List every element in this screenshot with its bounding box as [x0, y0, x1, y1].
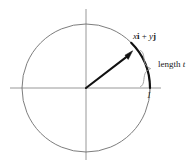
unit-circle-figure: xi + yj length t 1: [0, 0, 196, 165]
figure-canvas: [0, 0, 196, 165]
unit-vector-j-icon: j: [153, 31, 156, 41]
vector-plus-sign: +: [140, 31, 150, 41]
position-vector-shaft: [86, 55, 129, 88]
arc-length-label: length t: [158, 60, 185, 69]
vector-label: xi + yj: [133, 32, 156, 41]
arc-length-variable: t: [183, 59, 186, 69]
x-axis-tick-label: 1: [147, 92, 151, 100]
arc-length-word: length: [158, 59, 181, 69]
arc-length-highlight: [131, 43, 150, 88]
